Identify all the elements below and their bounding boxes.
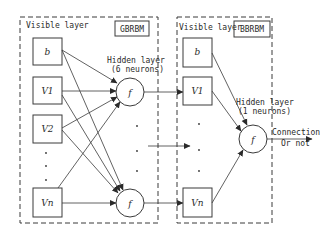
ellipsis-dot <box>136 170 138 172</box>
ellipsis-dot <box>136 150 138 152</box>
bbrbm-hidden-layer-label: Hidden layer <box>236 98 294 107</box>
gbrbm-hidden-layer-size: (6 neurons) <box>111 65 164 74</box>
ellipsis-dot <box>136 125 138 127</box>
gbrbm-hidden-layer-label: Hidden layer <box>107 56 165 65</box>
gbrbm-tag-label: GBRBM <box>120 25 144 34</box>
bbrbm-visible-layer-label: Visible layer <box>179 23 242 32</box>
gbrbm-panel: Visible layer GBRBM b V1 V2 Vn Hidden la… <box>20 17 165 223</box>
rbm-diagram: Visible layer GBRBM b V1 V2 Vn Hidden la… <box>0 0 332 239</box>
bbrbm-tag-label: BBRBM <box>240 25 264 34</box>
inter-panel-arrows <box>144 92 190 203</box>
ellipsis-dot <box>198 123 200 125</box>
output-label-line2: Or not <box>281 139 310 148</box>
visible-unit-b-label: b <box>45 47 51 57</box>
visible-unit-v1-label: V1 <box>41 86 53 96</box>
ellipsis-dot <box>198 149 200 151</box>
bbrbm-connections <box>212 53 247 203</box>
output-connection: Connection Or not <box>267 128 320 148</box>
ellipsis-dot <box>45 152 47 154</box>
ellipsis-dot <box>198 170 200 172</box>
gbrbm-visible-layer-label: Visible layer <box>26 21 89 30</box>
ellipsis-dot <box>45 165 47 167</box>
ellipsis-dot <box>45 179 47 181</box>
visible-unit-v2-label: V2 <box>41 124 53 134</box>
bbrbm-visible-unit-b-label: b <box>195 47 201 57</box>
visible-unit-vn-label: Vn <box>41 198 53 208</box>
bbrbm-visible-unit-vn-label: Vn <box>191 198 203 208</box>
bbrbm-visible-unit-v1-label: V1 <box>191 86 203 96</box>
output-label-line1: Connection <box>272 128 320 137</box>
bbrbm-panel: Visible layer BBRBM b V1 Vn Hidden layer… <box>177 17 294 223</box>
bbrbm-hidden-layer-size: (1 neurons) <box>238 107 291 116</box>
